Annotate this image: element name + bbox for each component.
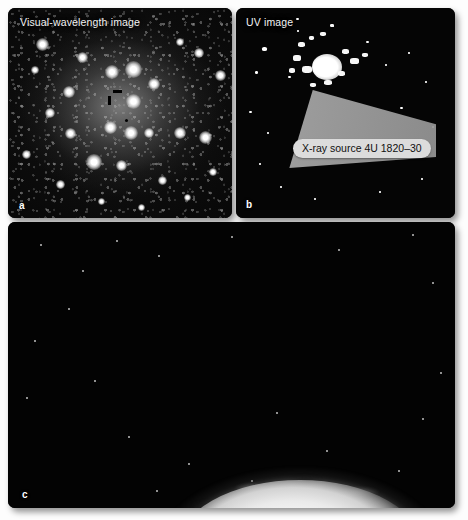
cluster-star: [138, 204, 145, 211]
background-star: [276, 412, 278, 414]
background-star: [94, 380, 96, 382]
uv-speck: [288, 76, 291, 78]
uv-speck: [379, 191, 381, 193]
uv-source-fragment: [350, 58, 359, 64]
cluster-star: [31, 66, 39, 74]
cluster-star: [174, 127, 186, 139]
figure-container: Visual-wavelength image a: [0, 0, 468, 520]
panel-b-label: UV image: [246, 16, 293, 28]
background-star: [156, 490, 158, 492]
cluster-star: [77, 52, 88, 63]
cluster-star: [125, 61, 142, 78]
cluster-star: [209, 168, 217, 176]
uv-source-fragment: [310, 83, 316, 87]
cluster-star: [63, 86, 75, 98]
background-star: [338, 249, 340, 251]
space-background: [8, 222, 455, 508]
cluster-star: [176, 38, 184, 46]
cluster-star: [98, 198, 105, 205]
source-position-tick-vertical: [108, 96, 111, 105]
background-star: [440, 372, 442, 374]
uv-speck: [425, 81, 427, 83]
uv-speck: [262, 47, 267, 51]
cluster-star: [105, 65, 119, 79]
background-star: [116, 240, 118, 242]
panel-visual-wavelength-image: Visual-wavelength image a: [8, 8, 232, 218]
uv-speck: [255, 71, 258, 74]
panel-a-letter: a: [19, 200, 25, 211]
uv-source-fragment: [320, 32, 326, 36]
cluster-star: [45, 108, 55, 118]
panel-a-label: Visual-wavelength image: [20, 16, 140, 28]
cluster-star: [194, 48, 204, 58]
x-ray-source-callout: X-ray source 4U 1820–30: [293, 139, 431, 158]
cluster-star: [36, 38, 49, 51]
uv-speck: [366, 41, 369, 43]
background-star: [422, 418, 424, 420]
background-star: [40, 244, 42, 246]
panel-artist-impression: c: [8, 222, 455, 508]
uv-speck: [421, 178, 423, 180]
background-star: [188, 463, 190, 465]
uv-source-fragment: [342, 49, 349, 54]
uv-speck: [259, 163, 261, 165]
cluster-star: [215, 70, 226, 81]
uv-source-fragment: [309, 36, 314, 40]
cluster-star: [104, 121, 117, 134]
panel-uv-image: X-ray source 4U 1820–30 UV image b: [236, 8, 455, 218]
uv-speck: [249, 111, 252, 113]
cluster-star: [126, 94, 141, 109]
background-star: [158, 255, 160, 257]
uv-speck: [314, 198, 316, 200]
panel-c-letter: c: [22, 489, 28, 500]
source-position-tick-horizontal: [113, 90, 122, 93]
uv-speck: [267, 132, 269, 134]
cluster-star: [65, 128, 76, 139]
cluster-star: [199, 131, 212, 144]
background-star: [412, 234, 414, 236]
uv-source-fragment: [362, 53, 368, 57]
uv-speck: [385, 64, 387, 66]
cluster-star: [116, 160, 127, 171]
uv-source-fragment: [330, 24, 334, 27]
cluster-star: [158, 176, 167, 185]
uv-source-fragment: [324, 80, 332, 85]
background-star: [128, 436, 130, 438]
uv-speck: [297, 30, 299, 32]
background-star: [82, 270, 84, 272]
background-star: [398, 470, 400, 472]
background-star: [231, 236, 233, 238]
background-star: [34, 340, 36, 342]
cluster-star: [56, 180, 65, 189]
cluster-star: [184, 194, 191, 201]
background-star: [432, 282, 434, 284]
cluster-star: [22, 150, 31, 159]
cluster-star: [148, 78, 160, 90]
cluster-star: [124, 126, 138, 140]
cluster-star: [144, 128, 154, 138]
uv-speck: [408, 52, 410, 54]
uv-speck: [400, 107, 403, 109]
uv-speck: [296, 18, 299, 20]
uv-source-fragment: [298, 42, 305, 47]
uv-source-fragment: [302, 66, 312, 73]
background-star: [26, 397, 28, 399]
uv-source-fragment: [289, 68, 295, 73]
uv-speck: [280, 186, 282, 188]
background-star: [68, 308, 70, 310]
source-position-dot: [125, 119, 128, 122]
uv-source-core: [312, 54, 342, 80]
uv-source-fragment: [293, 55, 301, 61]
panel-b-letter: b: [246, 199, 252, 210]
background-star: [326, 450, 328, 452]
cluster-star: [86, 154, 102, 170]
